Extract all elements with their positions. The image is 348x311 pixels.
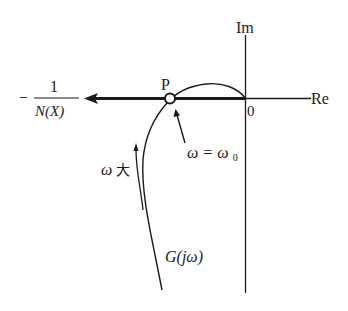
nyquist-diagram: Im Re 0 P − 1 N(X) ω = ω 0 ω 大 G(jω) — [0, 0, 348, 311]
imaginary-axis-label: Im — [236, 19, 254, 36]
intersection-point-p — [165, 94, 175, 104]
fraction-denominator: N(X) — [34, 103, 64, 120]
neg-sign: − — [19, 89, 28, 106]
omega0-label-omega: ω — [187, 144, 198, 161]
omega-increasing-arrow — [136, 150, 143, 210]
point-p-label: P — [161, 76, 170, 93]
omega-increasing-arrowhead — [134, 143, 139, 151]
omega0-label-subscript: 0 — [233, 152, 238, 163]
omega0-pointer-arrow — [177, 115, 185, 143]
origin-label: 0 — [247, 103, 255, 119]
fraction-numerator: 1 — [50, 78, 58, 95]
omega0-pointer-arrowhead — [174, 109, 181, 117]
real-axis-label: Re — [311, 90, 329, 107]
omega0-label-eq: = — [203, 144, 212, 161]
omega0-label-omega0: ω — [217, 144, 228, 161]
omega0-label: ω = ω 0 — [187, 144, 238, 163]
omega-increasing-label: ω 大 — [101, 161, 130, 178]
omega-increasing-omega: ω — [101, 161, 112, 178]
g-jw-label: G(jω) — [165, 248, 203, 266]
omega-increasing-big: 大 — [116, 162, 130, 178]
